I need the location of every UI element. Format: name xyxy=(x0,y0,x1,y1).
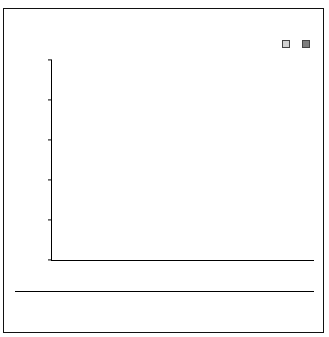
y-tick-60 xyxy=(26,139,52,140)
y-tick-100 xyxy=(26,59,52,60)
plot-wrapper xyxy=(4,9,325,334)
source-divider xyxy=(15,291,314,292)
figure-box xyxy=(3,8,324,333)
y-tick-0 xyxy=(26,259,52,260)
plot-area xyxy=(51,60,314,261)
x-tick-marks xyxy=(51,260,313,265)
bar-series-container xyxy=(52,60,314,260)
y-tick-40 xyxy=(26,179,52,180)
y-tick-20 xyxy=(26,219,52,220)
y-tick-80 xyxy=(26,99,52,100)
